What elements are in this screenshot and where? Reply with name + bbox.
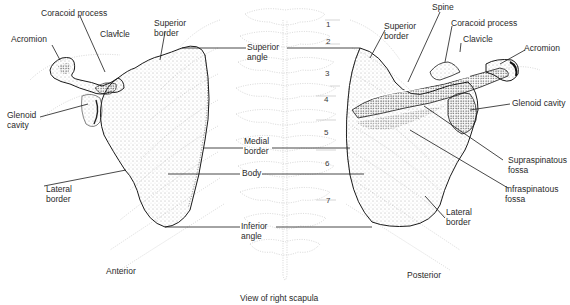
rib-number-4: 4 <box>324 95 328 104</box>
rib-number-2: 2 <box>326 37 330 46</box>
label-superior-angle: Superior angle <box>247 43 279 62</box>
label-glenoid-cavity-posterior: Glenoid cavity <box>512 99 565 109</box>
label-body: Body <box>242 169 261 179</box>
rib-number-6: 6 <box>325 159 329 168</box>
view-label-posterior: Posterior <box>407 270 441 280</box>
label-infraspinatous-fossa: Infraspinatous fossa <box>505 185 558 204</box>
label-coracoid-process-anterior: Coracoid process <box>41 9 107 19</box>
anterior-scapula <box>50 46 209 227</box>
label-inferior-angle: Inferior angle <box>241 222 267 241</box>
label-acromion-posterior: Acromion <box>524 44 560 54</box>
label-coracoid-process-posterior: Coracoid process <box>451 19 517 29</box>
label-clavicle-posterior: Clavicle <box>463 35 493 45</box>
label-superior-border-anterior: Superior border <box>154 19 186 38</box>
diagram-artwork <box>0 0 570 305</box>
rib-number-5: 5 <box>324 128 328 137</box>
view-label-anterior: Anterior <box>106 266 136 276</box>
label-supraspinatous-fossa: Supraspinatous fossa <box>508 156 567 175</box>
label-clavicle-anterior: Clavicle <box>100 30 130 40</box>
label-spine-posterior: Spine <box>432 3 454 13</box>
label-superior-border-posterior: Superior border <box>384 22 416 41</box>
rib-number-1: 1 <box>326 20 330 29</box>
figure-caption: View of right scapula <box>240 293 318 303</box>
posterior-scapula <box>346 48 518 227</box>
label-lateral-border-anterior: Lateral border <box>46 185 72 204</box>
label-acromion-anterior: Acromion <box>11 35 47 45</box>
rib-number-7: 7 <box>326 196 330 205</box>
label-lateral-border-posterior: Lateral border <box>446 208 472 227</box>
scapula-diagram: Coracoid process Acromion Clavicle Super… <box>0 0 570 305</box>
label-glenoid-cavity-anterior: Glenoid cavity <box>7 111 36 130</box>
rib-number-3: 3 <box>325 69 329 78</box>
label-medial-border: Medial border <box>244 137 269 156</box>
